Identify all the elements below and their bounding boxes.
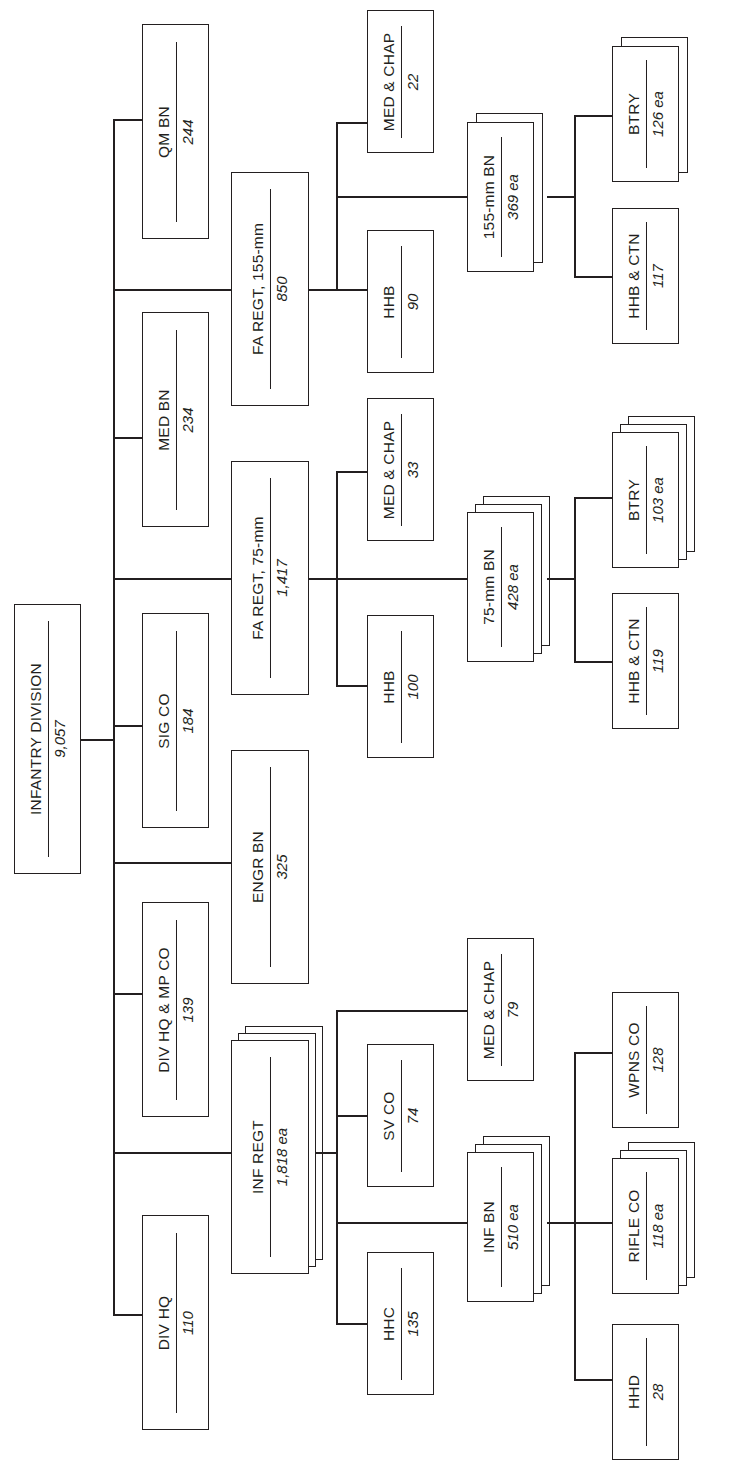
- connector-infbn-bus: [574, 1052, 576, 1379]
- connector-fa75-to-med-chap: [336, 471, 367, 473]
- connector-to-engr-bn: [113, 862, 231, 864]
- node-box: [612, 1158, 679, 1294]
- node-fa-regt-75[interactable]: FA REGT, 75-mm 1,417: [231, 461, 309, 695]
- node-hhd[interactable]: HHD 28: [612, 1324, 679, 1460]
- node-med-bn[interactable]: MED BN 234: [142, 312, 209, 527]
- connector-infbn-to-rifle-co: [574, 1222, 612, 1224]
- node-box: [367, 615, 434, 758]
- connector-infregt-to-inf-bn: [336, 1222, 467, 1224]
- node-box: [142, 902, 209, 1117]
- node-box: [14, 604, 81, 874]
- connector-fa75-to-hhb: [336, 685, 367, 687]
- node-box: [231, 172, 309, 406]
- connector-fa155-out: [309, 289, 337, 291]
- connector-fa155-to-hhb: [336, 289, 367, 291]
- node-box: [467, 938, 534, 1081]
- node-box: [612, 432, 679, 568]
- node-box: [612, 593, 679, 729]
- node-box: [367, 230, 434, 373]
- node-box: [612, 992, 679, 1128]
- connector-bn155-to-btry: [574, 115, 612, 117]
- node-box: [231, 750, 309, 984]
- node-hhb-75[interactable]: HHB 100: [367, 615, 434, 758]
- node-box: [367, 1044, 434, 1187]
- node-box: [142, 1215, 209, 1430]
- node-fa-regt-155[interactable]: FA REGT, 155-mm 850: [231, 172, 309, 406]
- node-box: [231, 461, 309, 695]
- node-med-chap-75[interactable]: MED & CHAP 33: [367, 398, 434, 541]
- connector-infregt-to-med-chap: [336, 1010, 467, 1012]
- connector-main-trunk: [113, 119, 115, 1314]
- node-inf-bn[interactable]: INF BN 510 ea: [467, 1152, 534, 1302]
- node-155mm-bn[interactable]: 155-mm BN 369 ea: [467, 122, 534, 272]
- node-box: [367, 1252, 434, 1395]
- connector-bn155-to-hhb-ctn: [574, 276, 612, 278]
- node-hhc[interactable]: HHC 135: [367, 1252, 434, 1395]
- node-btry-75[interactable]: BTRY 103 ea: [612, 432, 679, 568]
- node-engr-bn[interactable]: ENGR BN 325: [231, 750, 309, 984]
- connector-bn75-to-btry: [574, 497, 612, 499]
- connector-infregt-bus: [336, 1010, 338, 1323]
- node-box: [142, 613, 209, 828]
- node-hhb-ctn-75[interactable]: HHB & CTN 119: [612, 593, 679, 729]
- connector-infbn-to-hhd: [574, 1379, 612, 1381]
- org-chart-diagram: INFANTRY DIVISION 9,057 QM BN 244 MED BN…: [0, 0, 736, 1481]
- node-box: [142, 312, 209, 527]
- node-box: [367, 398, 434, 541]
- connector-to-qm-bn: [113, 119, 143, 121]
- connector-fa75-to-bn75: [336, 578, 467, 580]
- connector-to-div-hq: [113, 1314, 143, 1316]
- node-box: [231, 1040, 309, 1274]
- node-hhb-ctn-155[interactable]: HHB & CTN 117: [612, 208, 679, 344]
- node-box: [612, 46, 679, 182]
- node-hhb-155[interactable]: HHB 90: [367, 230, 434, 373]
- connector-bn155-out: [547, 196, 575, 198]
- connector-to-fa-regt-155: [113, 289, 231, 291]
- node-box: [467, 122, 534, 272]
- connector-root-stub: [80, 739, 114, 741]
- connector-bn75-to-hhb-ctn: [574, 661, 612, 663]
- connector-infregt-to-sv-co: [336, 1115, 367, 1117]
- node-box: [612, 1324, 679, 1460]
- connector-to-div-hq-mp-co: [113, 993, 143, 995]
- node-sv-co[interactable]: SV CO 74: [367, 1044, 434, 1187]
- node-div-hq-mp-co[interactable]: DIV HQ & MP CO 139: [142, 902, 209, 1117]
- node-box: [612, 208, 679, 344]
- connector-fa155-bus: [336, 122, 338, 290]
- node-sig-co[interactable]: SIG CO 184: [142, 613, 209, 828]
- node-btry-155[interactable]: BTRY 126 ea: [612, 46, 679, 182]
- node-box: [467, 512, 534, 662]
- connector-bn75-out: [547, 578, 575, 580]
- node-rifle-co[interactable]: RIFLE CO 118 ea: [612, 1158, 679, 1294]
- node-med-chap-155[interactable]: MED & CHAP 22: [367, 10, 434, 153]
- node-qm-bn[interactable]: QM BN 244: [142, 24, 209, 239]
- connector-to-med-bn: [113, 437, 143, 439]
- connector-infregt-to-hhc: [336, 1323, 367, 1325]
- node-div-hq[interactable]: DIV HQ 110: [142, 1215, 209, 1430]
- node-box: [367, 10, 434, 153]
- node-infantry-division[interactable]: INFANTRY DIVISION 9,057: [14, 604, 81, 874]
- connector-fa75-out: [309, 578, 337, 580]
- node-med-chap-inf[interactable]: MED & CHAP 79: [467, 938, 534, 1081]
- node-box: [467, 1152, 534, 1302]
- node-box: [142, 24, 209, 239]
- node-inf-regt[interactable]: INF REGT 1,818 ea: [231, 1040, 309, 1274]
- connector-fa155-to-bn155: [336, 196, 467, 198]
- connector-to-inf-regt: [113, 1152, 231, 1154]
- connector-to-sig-co: [113, 725, 143, 727]
- connector-to-fa-regt-75: [113, 578, 231, 580]
- connector-bn155-bus: [574, 115, 576, 276]
- connector-fa155-to-med-chap: [336, 122, 367, 124]
- connector-bn75-bus: [574, 497, 576, 661]
- connector-infbn-out: [547, 1222, 575, 1224]
- node-75mm-bn[interactable]: 75-mm BN 428 ea: [467, 512, 534, 662]
- node-wpns-co[interactable]: WPNS CO 128: [612, 992, 679, 1128]
- connector-infbn-to-wpns-co: [574, 1052, 612, 1054]
